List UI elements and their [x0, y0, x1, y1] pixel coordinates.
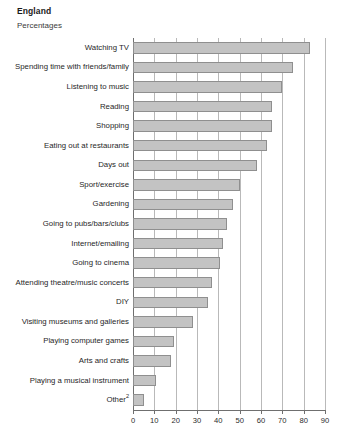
x-tick-20	[176, 410, 177, 414]
bar	[133, 101, 272, 113]
bar	[133, 297, 208, 309]
bar-row	[133, 355, 325, 367]
category-label: Days out	[98, 161, 129, 169]
x-tick-label-40: 40	[214, 416, 222, 425]
x-tick-70	[282, 410, 283, 414]
bar	[133, 160, 257, 172]
bar-row	[133, 277, 325, 289]
x-tick-50	[240, 410, 241, 414]
bar-row	[133, 297, 325, 309]
category-label: Spending time with friends/family	[15, 63, 129, 71]
x-tick-label-50: 50	[235, 416, 243, 425]
category-axis-labels: Watching TVSpending time with friends/fa…	[0, 38, 129, 410]
bar-series	[133, 38, 325, 410]
x-tick-label-60: 60	[257, 416, 265, 425]
plot-area	[133, 38, 325, 410]
category-label: Reading	[100, 103, 129, 111]
x-tick-label-10: 10	[150, 416, 158, 425]
bar	[133, 336, 174, 348]
x-tick-40	[218, 410, 219, 414]
x-tick-0	[133, 410, 134, 414]
bar-row	[133, 81, 325, 93]
chart-page: England Percentages Watching TVSpending …	[0, 0, 338, 438]
bar-row	[133, 140, 325, 152]
bar-row	[133, 120, 325, 132]
bar-row	[133, 160, 325, 172]
bar	[133, 375, 156, 387]
gridline-90	[325, 38, 326, 410]
bar-row	[133, 394, 325, 406]
x-tick-10	[154, 410, 155, 414]
bar-row	[133, 62, 325, 74]
bar-row	[133, 316, 325, 328]
category-label: Eating out at restaurants	[44, 142, 129, 150]
category-label: Internet/emailing	[71, 240, 129, 248]
category-label: Sport/exercise	[79, 181, 129, 189]
category-label: Attending theatre/music concerts	[15, 279, 129, 287]
x-tick-label-90: 90	[321, 416, 329, 425]
category-label: Arts and crafts	[79, 357, 129, 365]
category-label: Going to cinema	[72, 259, 129, 267]
bar	[133, 179, 240, 191]
bar-row	[133, 336, 325, 348]
x-tick-90	[325, 410, 326, 414]
bar	[133, 81, 282, 93]
category-label: Playing computer games	[43, 337, 129, 345]
category-label: Visiting museums and galleries	[22, 318, 129, 326]
bar	[133, 277, 212, 289]
bar	[133, 355, 171, 367]
bar	[133, 316, 193, 328]
bar	[133, 120, 272, 132]
x-tick-60	[261, 410, 262, 414]
category-label: Watching TV	[85, 44, 129, 52]
page-title: England	[17, 6, 51, 16]
category-label: Listening to music	[67, 83, 129, 91]
x-axis-line	[133, 410, 326, 411]
category-label: Shopping	[96, 122, 129, 130]
x-tick-30	[197, 410, 198, 414]
x-tick-label-80: 80	[299, 416, 307, 425]
x-tick-label-20: 20	[171, 416, 179, 425]
bar-row	[133, 199, 325, 211]
bar	[133, 257, 220, 269]
bar-row	[133, 218, 325, 230]
bar	[133, 238, 223, 250]
bar-row	[133, 101, 325, 113]
x-tick-label-0: 0	[131, 416, 135, 425]
bar	[133, 140, 267, 152]
bar-row	[133, 257, 325, 269]
category-label: Going to pubs/bars/clubs	[43, 220, 129, 228]
x-tick-label-30: 30	[193, 416, 201, 425]
bar-row	[133, 238, 325, 250]
category-label: Other2	[106, 396, 129, 404]
category-label: DIY	[116, 298, 129, 306]
x-tick-label-70: 70	[278, 416, 286, 425]
chart-subtitle: Percentages	[17, 21, 62, 30]
bar	[133, 394, 144, 406]
footnote-marker: 2	[126, 394, 129, 400]
bar-row	[133, 375, 325, 387]
category-label: Playing a musical instrument	[30, 377, 129, 385]
bar-row	[133, 179, 325, 191]
x-tick-80	[304, 410, 305, 414]
bar-row	[133, 42, 325, 54]
bar	[133, 42, 310, 54]
bar	[133, 62, 293, 74]
bar	[133, 199, 233, 211]
bar	[133, 218, 227, 230]
category-label: Gardening	[93, 200, 129, 208]
